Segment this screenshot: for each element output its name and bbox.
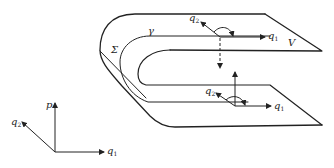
label-lower-q2-sub: 2 [211, 90, 215, 97]
label-axis-q1: q1 [107, 146, 117, 157]
sigma-line [100, 51, 146, 98]
label-axis-q1-sub: 1 [113, 150, 117, 157]
label-axis-q2-sub: 2 [17, 121, 21, 128]
label-gamma: γ [148, 26, 154, 36]
label-lower-q1: q1 [274, 101, 284, 112]
axis-q2-arrow [22, 122, 55, 152]
lower-q2-arrow [216, 93, 235, 106]
fold-inner-edge [138, 50, 322, 125]
label-axis-q2: q2 [11, 117, 21, 128]
gamma-curve [120, 36, 270, 102]
label-sigma: Σ [111, 45, 118, 55]
fold-outer-edge [100, 14, 322, 127]
label-upper-q1: q1 [268, 31, 278, 42]
diagram-root: Σ γ V q2 q1 q2 q1 p q2 q1 [0, 0, 334, 168]
label-upper-q2: q2 [189, 13, 199, 24]
label-lower-q1-sub: 1 [280, 105, 284, 112]
label-V: V [288, 38, 295, 48]
label-axis-p: p [46, 100, 52, 110]
label-lower-q2: q2 [205, 86, 215, 97]
label-upper-q1-sub: 1 [274, 35, 278, 42]
diagram-canvas [0, 0, 334, 168]
label-upper-q2-sub: 2 [195, 17, 199, 24]
